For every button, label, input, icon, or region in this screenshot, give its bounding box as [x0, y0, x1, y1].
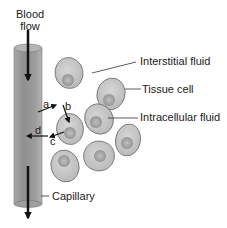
blood-flow-label-line2: flow: [16, 21, 44, 32]
blood-flow-label-line1: Blood: [16, 9, 44, 20]
cell-6: [47, 147, 82, 185]
arrow-a-label: a: [43, 99, 49, 110]
cell-1: [53, 55, 86, 90]
leader-interstitial: [92, 62, 136, 73]
tissue-cells: [47, 55, 143, 185]
cell-3: [55, 112, 85, 145]
arrow-c-label: c: [50, 136, 56, 147]
fluid-compartments-diagram: Blood flow Interstitial fluid Tissue cel…: [0, 0, 227, 228]
arrow-d-label: d: [35, 125, 41, 136]
cell-7: [81, 139, 117, 174]
interstitial-fluid-label: Interstitial fluid: [140, 56, 210, 67]
cell-5: [113, 122, 143, 158]
blood-flow-label: Blood flow: [16, 9, 44, 32]
tissue-cell-label: Tissue cell: [142, 84, 194, 95]
arrow-b-label: b: [65, 101, 71, 112]
intracellular-fluid-label: Intracellular fluid: [140, 112, 220, 123]
capillary-label: Capillary: [52, 191, 95, 202]
